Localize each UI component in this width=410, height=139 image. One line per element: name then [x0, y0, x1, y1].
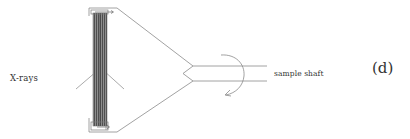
triangular-holder [110, 8, 193, 132]
x-rays-label: X-rays [10, 74, 38, 83]
sample-shaft [193, 66, 267, 81]
rotation-arrow-icon [221, 55, 244, 96]
panel-label: (d) [372, 61, 393, 76]
sample-plate [93, 13, 107, 126]
diagram-figure: X-rays sample shaft (d) [0, 0, 410, 139]
diagram-canvas [0, 0, 410, 139]
sample-shaft-label: sample shaft [274, 70, 324, 78]
